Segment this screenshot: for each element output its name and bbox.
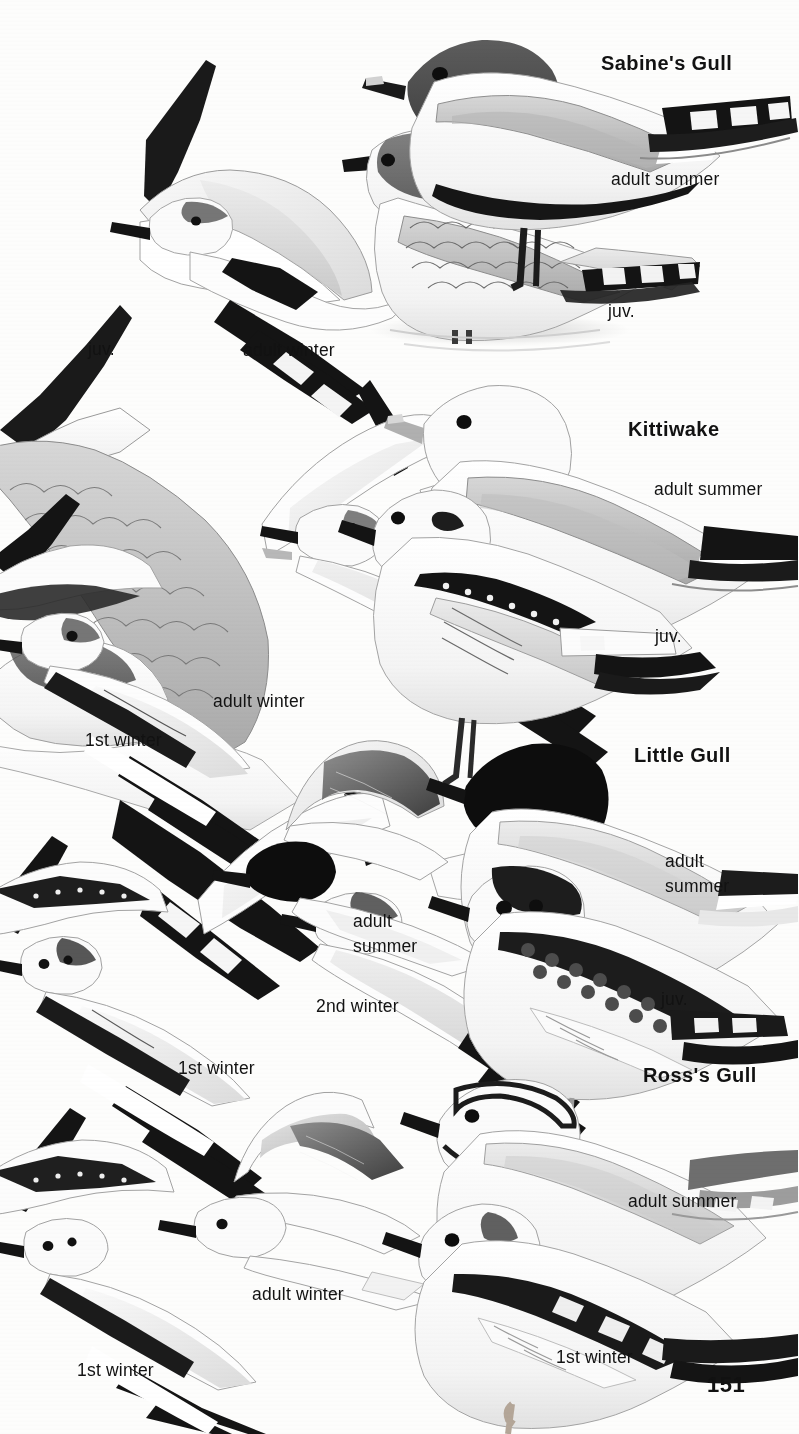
species-heading-sabines-gull: Sabine's Gull bbox=[601, 52, 732, 74]
plumage-label-ross-1st-winter: 1st winter bbox=[556, 1348, 633, 1368]
plumage-label-ross-adult-winter: adult winter bbox=[252, 1285, 344, 1305]
plumage-label-little-juv: juv. bbox=[661, 990, 688, 1010]
plumage-label-ross-1st-winter-flight: 1st winter bbox=[77, 1361, 154, 1381]
plumage-label-little-2nd-winter: 2nd winter bbox=[316, 997, 399, 1017]
plumage-label-sabine-juv-standing: juv. bbox=[608, 302, 635, 322]
plumage-label-kittiwake-adult-summer: adult summer bbox=[654, 480, 762, 500]
plumage-label-line2: summer bbox=[665, 874, 729, 899]
plumage-label-little-adult-summer-flight: adult summer bbox=[353, 909, 417, 960]
plumage-label-line1: adult bbox=[665, 849, 729, 874]
species-heading-little-gull: Little Gull bbox=[634, 744, 731, 766]
plumage-label-kittiwake-juv: juv. bbox=[655, 627, 682, 647]
rosss-gull-group bbox=[0, 1080, 798, 1434]
page-number: 151 bbox=[707, 1372, 745, 1398]
plumage-label-line2: summer bbox=[353, 934, 417, 959]
plumage-label-little-1st-winter: 1st winter bbox=[178, 1059, 255, 1079]
plumage-label-sabine-juv-flight: juv. bbox=[88, 340, 115, 360]
sabine-adult-winter-illustration bbox=[110, 60, 420, 424]
plumage-label-sabine-adult-winter: adult winter bbox=[243, 341, 335, 361]
plumage-label-ross-adult-summer: adult summer bbox=[628, 1192, 736, 1212]
species-heading-kittiwake: Kittiwake bbox=[628, 418, 719, 440]
plumage-label-line1: adult bbox=[353, 909, 417, 934]
field-guide-page: Sabine's Gull juv. adult winter adult su… bbox=[0, 0, 799, 1434]
bird-illustration-plate bbox=[0, 0, 799, 1434]
plumage-label-kittiwake-1st-winter: 1st winter bbox=[85, 731, 162, 751]
plumage-label-sabine-adult-summer: adult summer bbox=[611, 170, 719, 190]
plumage-label-kittiwake-adult-winter: adult winter bbox=[213, 692, 305, 712]
plumage-label-little-adult-summer: adult summer bbox=[665, 849, 729, 900]
species-heading-rosss-gull: Ross's Gull bbox=[643, 1064, 757, 1086]
ross-adult-winter-illustration bbox=[158, 1092, 436, 1310]
